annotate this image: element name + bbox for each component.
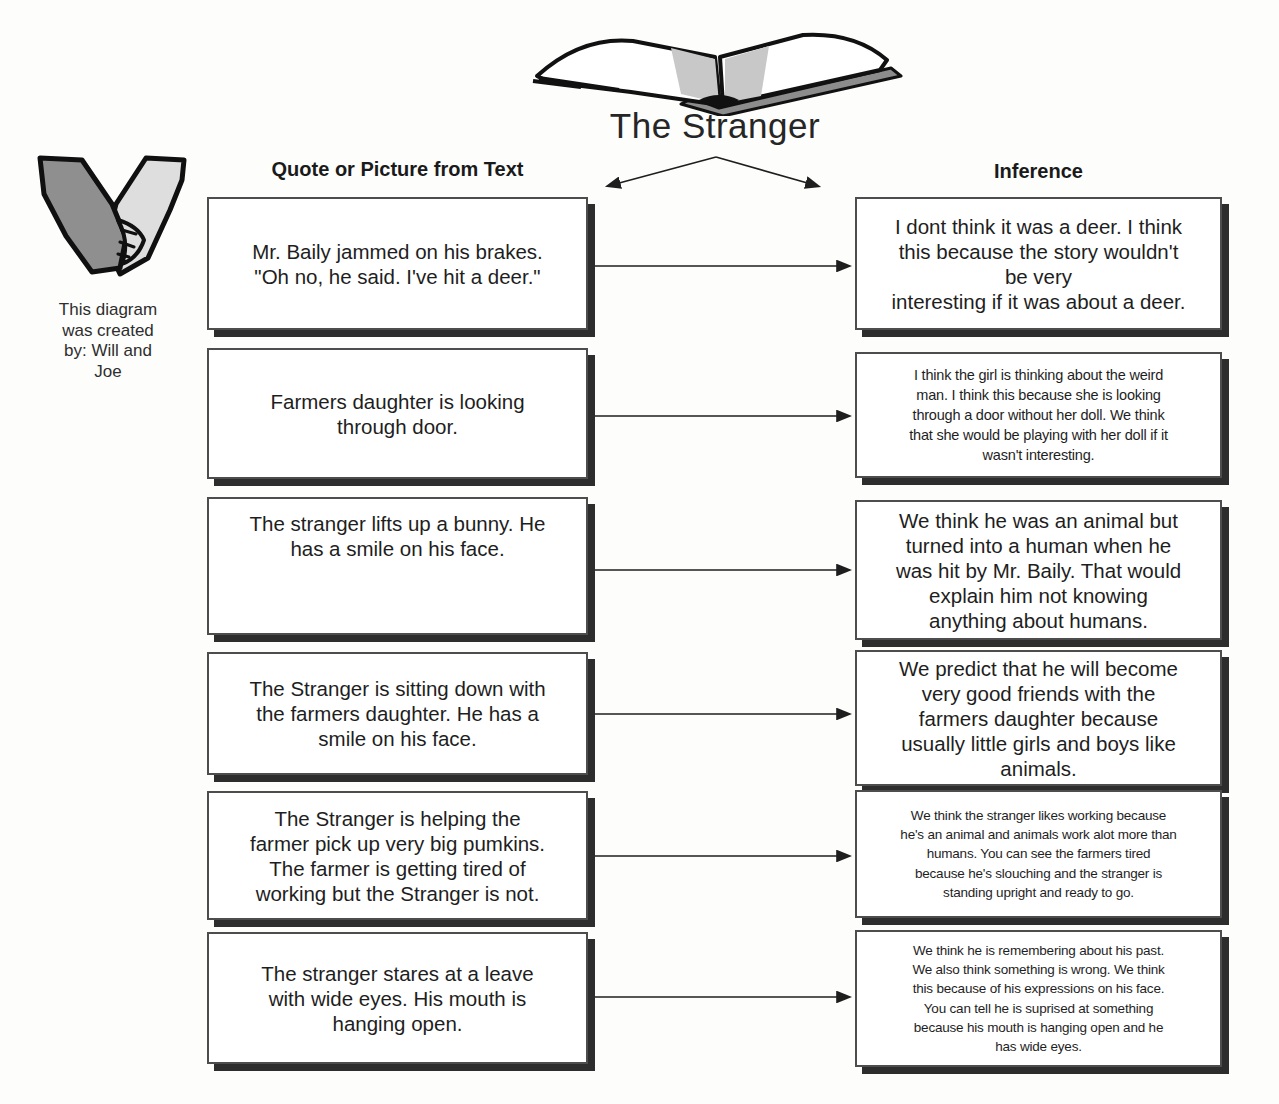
open-book-icon	[523, 18, 908, 116]
page-title: The Stranger	[515, 106, 915, 146]
inference-text: We think he is remembering about his pas…	[867, 941, 1210, 1056]
inference-text: I think the girl is thinking about the w…	[867, 365, 1210, 465]
quote-box: The stranger stares at a leave with wide…	[207, 932, 588, 1064]
inference-box: We think the stranger likes working beca…	[855, 790, 1222, 918]
quote-box: Mr. Baily jammed on his brakes. "Oh no, …	[207, 197, 588, 330]
inference-text: We predict that he will become very good…	[867, 656, 1210, 781]
quote-text: The stranger lifts up a bunny. He has a …	[219, 505, 576, 561]
quote-box: The Stranger is helping the farmer pick …	[207, 791, 588, 920]
credit-text: This diagram was created by: Will and Jo…	[8, 300, 208, 383]
inference-text: We think he was an animal but turned int…	[867, 508, 1210, 633]
quote-text: The stranger stares at a leave with wide…	[219, 961, 576, 1036]
quote-text: The Stranger is helping the farmer pick …	[219, 806, 576, 906]
quote-text: The Stranger is sitting down with the fa…	[219, 676, 576, 751]
inference-box: I dont think it was a deer. I think this…	[855, 197, 1222, 330]
column-header-quote: Quote or Picture from Text	[207, 158, 588, 181]
inference-box: I think the girl is thinking about the w…	[855, 352, 1222, 478]
quote-text: Mr. Baily jammed on his brakes. "Oh no, …	[219, 239, 576, 289]
inference-box: We think he is remembering about his pas…	[855, 930, 1222, 1067]
quote-box: The Stranger is sitting down with the fa…	[207, 652, 588, 775]
inference-text: I dont think it was a deer. I think this…	[867, 214, 1210, 314]
inference-box: We think he was an animal but turned int…	[855, 500, 1222, 640]
holding-hands-icon	[24, 154, 192, 300]
title-arrow-left	[608, 157, 716, 186]
quote-box: Farmers daughter is looking through door…	[207, 348, 588, 479]
title-arrow-right	[716, 157, 818, 186]
column-header-inference: Inference	[855, 160, 1222, 183]
inference-text: We think the stranger likes working beca…	[867, 806, 1210, 902]
quote-text: Farmers daughter is looking through door…	[219, 389, 576, 439]
inference-box: We predict that he will become very good…	[855, 650, 1222, 786]
quote-box: The stranger lifts up a bunny. He has a …	[207, 497, 588, 635]
stranger-inference-diagram: The Stranger This diagram was created by…	[0, 0, 1279, 1104]
